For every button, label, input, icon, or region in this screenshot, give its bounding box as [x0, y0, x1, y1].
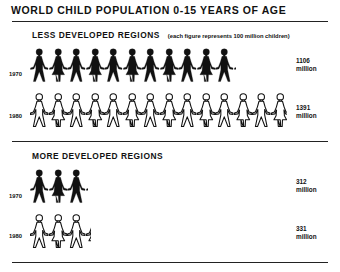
person-figure-icon	[160, 47, 179, 83]
pictogram-row-less-1980	[30, 92, 287, 128]
person-figure-icon	[30, 168, 49, 204]
person-figure-icon	[49, 168, 68, 204]
person-figure-icon	[197, 92, 216, 128]
value-number: 312	[296, 178, 317, 186]
value-number: 331	[296, 225, 317, 233]
value-number: 1106	[296, 57, 317, 65]
person-figure-icon	[30, 92, 49, 128]
pictogram-row-more-1980	[30, 213, 91, 249]
person-figure-icon	[86, 92, 105, 128]
value-label: 312 million	[296, 178, 317, 193]
person-figure-icon	[49, 213, 68, 249]
person-figure-icon	[104, 92, 123, 128]
year-label: 1980	[9, 233, 22, 239]
value-label: 1391 million	[296, 104, 317, 119]
person-figure-icon	[67, 213, 86, 249]
value-unit: million	[296, 186, 317, 194]
pictogram-row-more-1970	[30, 168, 88, 204]
person-figure-icon	[67, 47, 86, 83]
person-figure-icon	[215, 47, 234, 83]
value-label: 1106 million	[296, 57, 317, 72]
partial-person-figure-icon	[86, 213, 92, 249]
person-figure-icon	[160, 92, 179, 128]
person-figure-icon	[123, 47, 142, 83]
person-figure-icon	[67, 168, 86, 204]
person-figure-icon	[67, 92, 86, 128]
person-figure-icon	[234, 92, 253, 128]
value-number: 1391	[296, 104, 317, 112]
person-figure-icon	[141, 92, 160, 128]
person-figure-icon	[104, 47, 123, 83]
person-figure-icon	[123, 92, 142, 128]
person-figure-icon	[49, 47, 68, 83]
person-figure-icon	[215, 92, 234, 128]
person-figure-icon	[86, 47, 105, 83]
section-title-more-developed: MORE DEVELOPED REGIONS	[32, 151, 163, 161]
person-figure-icon	[178, 92, 197, 128]
person-figure-icon	[49, 92, 68, 128]
value-unit: million	[296, 233, 317, 241]
unit-note: (each figure represents 100 million chil…	[168, 33, 290, 39]
person-figure-icon	[178, 47, 197, 83]
value-unit: million	[296, 112, 317, 120]
pictogram-row-less-1970	[30, 47, 236, 83]
value-unit: million	[296, 65, 317, 73]
partial-person-figure-icon	[86, 168, 89, 204]
person-figure-icon	[30, 47, 49, 83]
divider-top	[12, 21, 328, 22]
person-figure-icon	[197, 47, 216, 83]
divider-bottom	[12, 262, 328, 263]
person-figure-icon	[141, 47, 160, 83]
partial-person-figure-icon	[234, 47, 237, 83]
section-label: LESS DEVELOPED REGIONS	[32, 30, 160, 40]
divider-middle	[12, 141, 328, 142]
year-label: 1970	[9, 71, 22, 77]
partial-person-figure-icon	[271, 92, 288, 128]
person-figure-icon	[30, 213, 49, 249]
year-label: 1980	[9, 113, 22, 119]
year-label: 1970	[9, 193, 22, 199]
value-label: 331 million	[296, 225, 317, 240]
person-figure-icon	[252, 92, 271, 128]
chart-title: WORLD CHILD POPULATION 0-15 YEARS OF AGE	[11, 4, 286, 16]
section-title-less-developed: LESS DEVELOPED REGIONS(each figure repre…	[32, 30, 290, 40]
